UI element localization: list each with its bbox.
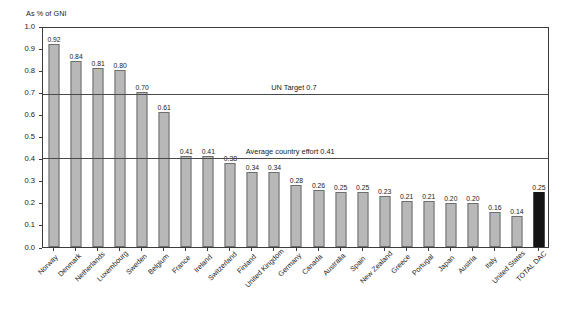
y-axis-tick-mark — [39, 71, 42, 72]
bar-slot: 0.21 — [418, 28, 440, 247]
x-axis-tick-label: Switzerland — [206, 250, 239, 283]
bar[interactable] — [159, 112, 170, 247]
bar-slot: 0.41 — [197, 28, 219, 247]
bar-slot: 0.34 — [263, 28, 285, 247]
y-axis-tick-label: 0.0 — [24, 243, 35, 252]
bar[interactable] — [423, 201, 434, 247]
y-axis-tick-mark — [39, 137, 42, 138]
bars-layer: 0.920.840.810.800.700.610.410.410.380.34… — [43, 28, 548, 247]
bar-value-label: 0.34 — [268, 164, 281, 171]
bar-value-label: 0.20 — [466, 195, 479, 202]
bar-value-label: 0.21 — [422, 193, 435, 200]
y-axis-title: As % of GNI — [26, 9, 67, 18]
bar[interactable] — [203, 156, 214, 247]
bar[interactable] — [357, 192, 368, 247]
y-axis-tick-mark — [39, 49, 42, 50]
bar-slot: 0.28 — [285, 28, 307, 247]
y-axis-tick-label: 0.2 — [24, 198, 35, 207]
bar-value-label: 0.25 — [334, 184, 347, 191]
bar[interactable] — [181, 156, 192, 247]
y-axis-tick-label: 0.9 — [24, 44, 35, 53]
bar-slot: 0.70 — [131, 28, 153, 247]
x-axis-tick-label: Austria — [456, 253, 478, 275]
x-axis-tick-label: France — [170, 253, 192, 275]
bar[interactable] — [247, 172, 258, 247]
bar-value-label: 0.28 — [290, 177, 303, 184]
bar-value-label: 0.20 — [444, 195, 457, 202]
bar-value-label: 0.41 — [180, 148, 193, 155]
bar-slot: 0.41 — [175, 28, 197, 247]
y-axis-tick-mark — [39, 248, 42, 249]
bar-value-label: 0.14 — [510, 208, 523, 215]
y-axis-tick-mark — [39, 115, 42, 116]
bar[interactable] — [313, 190, 324, 247]
x-axis-tick-mark — [362, 248, 363, 251]
y-axis-tick-label: 0.3 — [24, 176, 35, 185]
bar-slot: 0.25 — [330, 28, 352, 247]
bar-slot: 0.23 — [374, 28, 396, 247]
bar-value-label: 0.34 — [246, 164, 259, 171]
y-axis-tick-label: 1.0 — [24, 22, 35, 31]
bar-value-label: 0.70 — [136, 84, 149, 91]
y-axis-tick-label: 0.7 — [24, 88, 35, 97]
bar[interactable] — [335, 192, 346, 247]
bar[interactable] — [269, 172, 280, 247]
bar[interactable] — [467, 203, 478, 247]
bar[interactable] — [225, 163, 236, 247]
y-axis-tick-mark — [39, 93, 42, 94]
bar-value-label: 0.84 — [69, 53, 82, 60]
y-axis-tick-label: 0.6 — [24, 110, 35, 119]
y-axis-tick-label: 0.8 — [24, 66, 35, 75]
bar-value-label: 0.26 — [312, 182, 325, 189]
bar-slot: 0.80 — [109, 28, 131, 247]
y-axis-tick-mark — [39, 27, 42, 28]
bar-slot: 0.25 — [352, 28, 374, 247]
bar[interactable] — [511, 216, 522, 247]
y-axis-tick-label: 0.4 — [24, 154, 35, 163]
bar-slot: 0.61 — [153, 28, 175, 247]
y-axis-tick-label: 0.5 — [24, 132, 35, 141]
bar-value-label: 0.21 — [400, 193, 413, 200]
bar[interactable] — [533, 192, 544, 247]
x-axis-tick-mark — [185, 248, 186, 251]
x-axis-tick-label: Belgium — [146, 252, 171, 277]
x-axis-tick-mark — [472, 248, 473, 251]
x-axis-tick-mark — [450, 248, 451, 251]
x-axis-tick-mark — [318, 248, 319, 251]
y-axis-tick-mark — [39, 181, 42, 182]
reference-line-label: Average country effort 0.41 — [246, 147, 335, 156]
bar-slot: 0.20 — [440, 28, 462, 247]
bar[interactable] — [291, 185, 302, 247]
plot-area: 0.920.840.810.800.700.610.410.410.380.34… — [42, 27, 549, 248]
y-axis-tick-mark — [39, 203, 42, 204]
bar[interactable] — [137, 92, 148, 247]
bar-slot: 0.20 — [462, 28, 484, 247]
bar-value-label: 0.23 — [378, 188, 391, 195]
reference-line — [43, 158, 548, 159]
x-axis-tick-mark — [406, 248, 407, 251]
bar-slot: 0.81 — [87, 28, 109, 247]
bar-value-label: 0.16 — [488, 204, 501, 211]
y-axis-tick-mark — [39, 159, 42, 160]
bar-slot: 0.26 — [308, 28, 330, 247]
bar[interactable] — [71, 61, 82, 247]
bar-slot: 0.25 — [528, 28, 550, 247]
bar-slot: 0.92 — [43, 28, 65, 247]
bar[interactable] — [379, 196, 390, 247]
bar[interactable] — [489, 212, 500, 247]
x-axis-tick-label: Portugal — [410, 252, 435, 277]
bar[interactable] — [445, 203, 456, 247]
bar-value-label: 0.25 — [356, 184, 369, 191]
x-axis-tick-mark — [53, 248, 54, 251]
bar[interactable] — [49, 44, 60, 247]
bar-slot: 0.38 — [219, 28, 241, 247]
x-axis-tick-mark — [494, 248, 495, 251]
bar[interactable] — [401, 201, 412, 247]
bar-slot: 0.84 — [65, 28, 87, 247]
bar-value-label: 0.80 — [114, 62, 127, 69]
bar-value-label: 0.92 — [47, 36, 60, 43]
x-axis-tick-label: New Zealand — [358, 249, 394, 285]
x-axis-tick-label: Spain — [348, 254, 367, 273]
reference-line — [43, 94, 548, 95]
x-axis-tick-label: Japan — [436, 253, 456, 273]
